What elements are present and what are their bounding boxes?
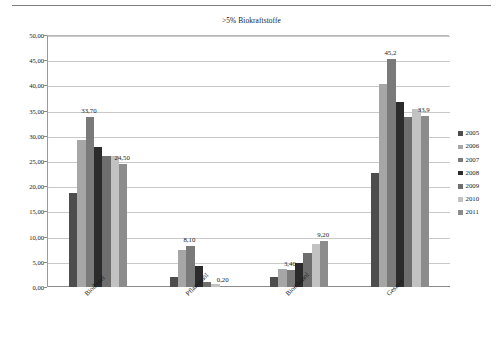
data-label: 9,20 [317, 231, 329, 238]
data-label: 45,2 [384, 49, 396, 56]
chart-page: >5% Biokraftstoffe 0,005,0010,0015,0020,… [0, 0, 503, 340]
bar-bioethanol-2005 [270, 277, 278, 287]
bar-gesamt-2011 [421, 116, 429, 287]
bar-biodiesel-2009 [102, 156, 110, 287]
y-axis-tick-label: 10,00 [4, 233, 44, 240]
legend-swatch-icon [458, 145, 463, 150]
y-axis-tick-mark [44, 287, 47, 288]
bar-biodiesel-2008 [94, 147, 102, 287]
bar-pflanzen-l-2010 [211, 284, 219, 287]
bar-biodiesel-2010 [111, 156, 119, 287]
y-axis-tick-label: 45,00 [4, 57, 44, 64]
data-label: 0,20 [217, 276, 229, 283]
bar-biodiesel-2007 [86, 117, 94, 287]
legend-swatch-icon [458, 171, 463, 176]
y-axis-tick-label: 50,00 [4, 32, 44, 39]
y-axis-tick-label: 35,00 [4, 107, 44, 114]
y-axis-tick-label: 5,00 [4, 258, 44, 265]
bar-pflanzen-l-2009 [203, 282, 211, 287]
data-label: 8,10 [183, 236, 195, 243]
legend-item-2011[interactable]: 2011 [458, 206, 503, 219]
y-axis-tick-label: 20,00 [4, 183, 44, 190]
legend-item-2006[interactable]: 2006 [458, 140, 503, 153]
top-divider [12, 5, 491, 6]
data-label: 33,70 [81, 107, 96, 114]
legend-swatch-icon [458, 131, 463, 136]
legend-swatch-icon [458, 197, 463, 202]
legend-item-2007[interactable]: 2007 [458, 153, 503, 166]
legend-item-2005[interactable]: 2005 [458, 127, 503, 140]
bar-biodiesel-2005 [69, 193, 77, 287]
legend-swatch-icon [458, 184, 463, 189]
bar-gesamt-2006 [379, 84, 387, 287]
bar-biodiesel-2011 [119, 164, 127, 287]
y-axis-tick-label: 0,00 [4, 284, 44, 291]
legend-label: 2010 [466, 196, 480, 203]
bar-pflanzen-l-2011 [220, 286, 228, 287]
legend-label: 2008 [466, 170, 480, 177]
chart-legend: 2005200620072008200920102011 [458, 127, 503, 219]
y-axis-ticks: 0,005,0010,0015,0020,0025,0030,0035,0040… [0, 35, 44, 287]
data-label: 33,9 [418, 106, 430, 113]
bar-gesamt-2008 [396, 102, 404, 287]
bar-gesamt-2009 [404, 117, 412, 287]
bar-bioethanol-2006 [278, 269, 286, 287]
bar-pflanzen-l-2005 [170, 277, 178, 287]
y-axis-tick-label: 15,00 [4, 208, 44, 215]
bar-biodiesel-2006 [77, 140, 85, 287]
bar-gesamt-2007 [387, 59, 395, 287]
chart-title: >5% Biokraftstoffe [0, 16, 503, 25]
legend-label: 2006 [466, 143, 480, 150]
bar-gesamt-2010 [412, 109, 420, 287]
bar-bioethanol-2010 [312, 244, 320, 287]
legend-label: 2005 [466, 130, 480, 137]
y-axis-tick-label: 40,00 [4, 82, 44, 89]
legend-item-2008[interactable]: 2008 [458, 167, 503, 180]
legend-item-2010[interactable]: 2010 [458, 193, 503, 206]
bar-gesamt-2005 [371, 173, 379, 287]
bar-bioethanol-2011 [320, 241, 328, 287]
plot-area [47, 35, 449, 287]
legend-label: 2011 [466, 209, 479, 216]
legend-item-2009[interactable]: 2009 [458, 180, 503, 193]
bar-pflanzen-l-2006 [178, 250, 186, 287]
legend-label: 2007 [466, 157, 480, 164]
data-label: 24,50 [115, 154, 130, 161]
legend-swatch-icon [458, 158, 463, 163]
legend-swatch-icon [458, 210, 463, 215]
data-label: 3,40 [284, 260, 296, 267]
y-axis-tick-label: 30,00 [4, 132, 44, 139]
legend-label: 2009 [466, 183, 480, 190]
gridline [48, 36, 450, 37]
y-axis-tick-label: 25,00 [4, 158, 44, 165]
